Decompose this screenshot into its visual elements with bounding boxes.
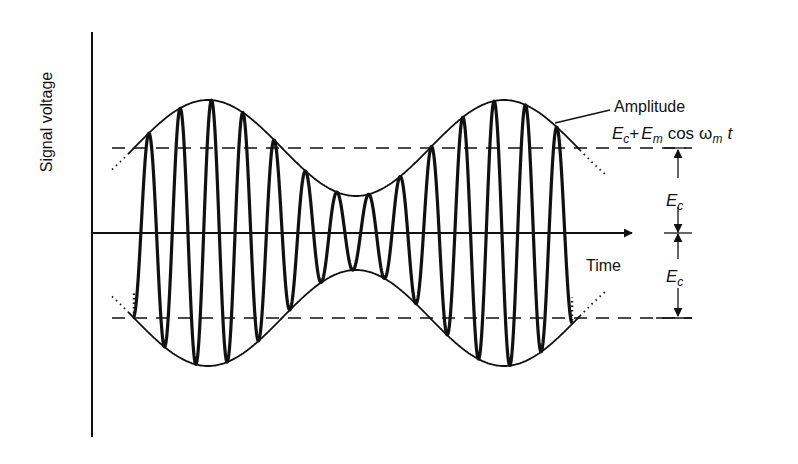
lower-envelope-dotted-extension-right (580, 292, 605, 316)
formula-cos: cos (668, 124, 694, 143)
formula-omega: ω (699, 124, 712, 143)
dimension-label-lower: Ec (666, 267, 683, 289)
upper-envelope-dotted-extension-left (112, 154, 128, 170)
dim-lower-base: E (666, 267, 678, 286)
amplitude-title: Amplitude (614, 98, 685, 115)
lower-envelope-dotted-extension-left (112, 296, 128, 312)
formula-plus: + (629, 124, 639, 143)
formula-em-base: E (641, 124, 653, 143)
dim-lower-sub: c (677, 275, 683, 289)
amplitude-leader-line (555, 110, 610, 123)
dimension-label-upper: Ec (666, 191, 683, 213)
formula-em-sub: m (653, 132, 663, 146)
y-axis-label: Signal voltage (38, 72, 55, 173)
dimension-arrows (656, 148, 692, 318)
dim-upper-base: E (666, 191, 678, 210)
am-wave-diagram: Signal voltage Time Amplitude Ec+Emcosωm… (0, 0, 798, 464)
dim-upper-sub: c (677, 199, 683, 213)
formula-omega-sub: m (712, 132, 722, 146)
x-axis-label: Time (586, 257, 621, 274)
formula-ec-base: E (612, 124, 624, 143)
upper-envelope-dotted-extension-right (580, 150, 605, 174)
formula-t: t (727, 124, 733, 143)
amplitude-formula: Ec+Emcosωmt (612, 124, 733, 146)
